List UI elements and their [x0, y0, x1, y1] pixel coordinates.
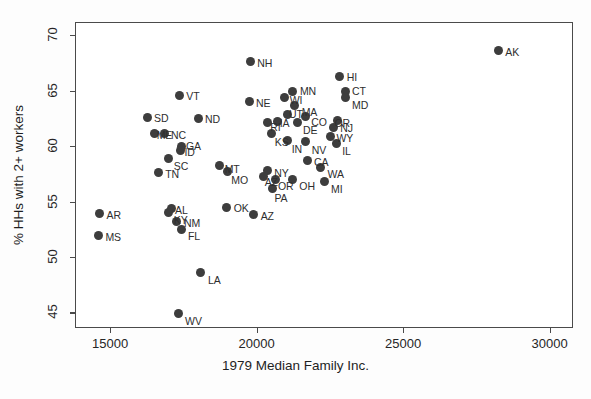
point-label: NH — [257, 58, 272, 68]
y-axis-title: % HHs with 2+ workers — [11, 105, 26, 245]
point-label: MI — [331, 184, 342, 194]
y-tick-mark — [70, 312, 75, 313]
point-label: AZ — [265, 177, 278, 187]
y-tick-label: 65 — [45, 79, 60, 101]
scatter-point — [174, 309, 183, 318]
point-label: IL — [342, 146, 351, 156]
point-label: LA — [208, 275, 221, 285]
plot-frame — [75, 22, 573, 328]
point-label: MS — [105, 232, 121, 242]
point-label: OH — [299, 181, 315, 191]
y-tick-label: 70 — [45, 24, 60, 46]
y-tick-mark — [70, 202, 75, 203]
scatter-point — [175, 91, 184, 100]
point-label: WA — [327, 169, 343, 179]
point-label: MO — [231, 175, 248, 185]
y-tick-mark — [70, 257, 75, 258]
point-label: AR — [107, 210, 121, 220]
point-label: NV — [312, 145, 326, 155]
point-label: ID — [184, 147, 194, 157]
y-tick-label: 60 — [45, 135, 60, 157]
scatter-point — [341, 93, 350, 102]
point-label: HI — [347, 72, 357, 82]
scatter-point — [194, 114, 203, 123]
point-label: OR — [278, 181, 294, 191]
scatter-point — [143, 113, 152, 122]
point-label: CA — [314, 157, 328, 167]
point-label: FL — [188, 231, 200, 241]
x-axis-title: 1979 Median Family Inc. — [0, 358, 591, 373]
point-label: OK — [234, 203, 249, 213]
x-tick-label: 15000 — [92, 336, 128, 351]
point-label: WY — [336, 133, 353, 143]
point-label: MN — [300, 86, 316, 96]
point-label: CT — [352, 86, 366, 96]
point-label: MD — [352, 100, 368, 110]
point-label: VT — [186, 91, 199, 101]
y-tick-mark — [70, 91, 75, 92]
x-tick-mark — [550, 328, 551, 333]
chart-canvas: AKNHHIMNCTMDVTWINEMAUTCOSDNDORRIIADENJME… — [0, 0, 591, 399]
point-label: TN — [165, 169, 179, 179]
y-tick-label: 55 — [45, 190, 60, 212]
point-label: IA — [280, 118, 290, 128]
x-tick-label: 30000 — [531, 336, 567, 351]
point-label: MT — [225, 164, 240, 174]
y-tick-label: 45 — [45, 301, 60, 323]
point-label: UT — [289, 109, 303, 119]
y-tick-label: 50 — [45, 246, 60, 268]
point-label: NM — [184, 218, 200, 228]
x-tick-label: 25000 — [385, 336, 421, 351]
y-tick-mark — [70, 35, 75, 36]
point-label: SD — [154, 113, 168, 123]
point-label: DE — [303, 125, 317, 135]
point-label: ME — [157, 130, 173, 140]
scatter-point — [154, 168, 163, 177]
point-label: KS — [275, 137, 289, 147]
y-tick-mark — [70, 146, 75, 147]
point-label: AK — [505, 47, 519, 57]
point-label: ND — [205, 114, 220, 124]
x-tick-mark — [110, 328, 111, 333]
scatter-point — [245, 97, 254, 106]
point-label: PA — [274, 193, 287, 203]
point-label: AZ — [261, 211, 274, 221]
point-label: IN — [292, 144, 302, 154]
point-label: WV — [185, 316, 202, 326]
x-tick-mark — [403, 328, 404, 333]
scatter-point — [222, 203, 231, 212]
point-label: NE — [256, 98, 270, 108]
scatter-point — [303, 156, 312, 165]
point-label: WI — [290, 95, 303, 105]
x-tick-label: 20000 — [239, 336, 275, 351]
point-label: NC — [171, 130, 186, 140]
x-tick-mark — [257, 328, 258, 333]
